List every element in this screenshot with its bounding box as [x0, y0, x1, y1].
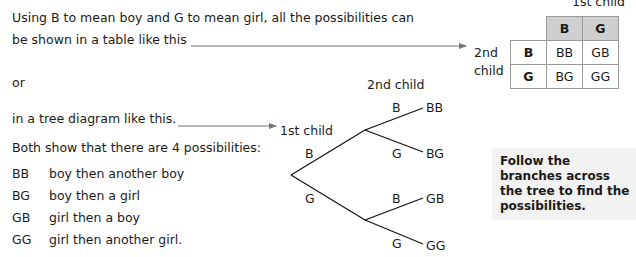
- outcome-label: BB: [426, 100, 443, 115]
- callout-box: Follow the branches across the tree to f…: [492, 148, 636, 220]
- branch-label: B: [305, 146, 314, 161]
- tree-level-2-label: 2nd child: [367, 77, 424, 92]
- branch-label: B: [392, 100, 401, 115]
- tree-level-1-label: 1st child: [280, 123, 333, 138]
- branch-label: G: [392, 236, 402, 251]
- outcome-label: GG: [426, 238, 445, 253]
- outcome-label: GB: [426, 191, 444, 206]
- branch-label: B: [392, 191, 401, 206]
- outcome-label: BG: [426, 146, 444, 161]
- branch-label: G: [392, 146, 402, 161]
- branch-label: G: [305, 191, 315, 206]
